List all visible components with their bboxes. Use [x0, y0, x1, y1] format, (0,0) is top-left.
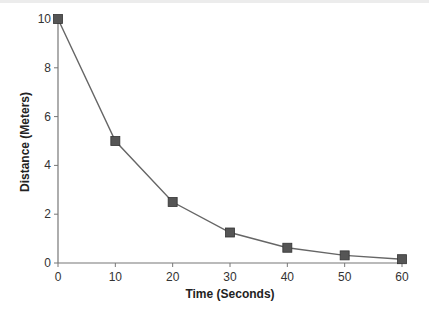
square-marker-icon [226, 228, 235, 237]
x-axis-title: Time (Seconds) [185, 287, 274, 301]
x-tick-label: 10 [109, 270, 123, 284]
distance-series-line [58, 19, 402, 259]
square-marker-icon [283, 243, 292, 252]
y-axis-ticks: 0246810 [38, 12, 58, 270]
square-marker-icon [168, 198, 177, 207]
x-tick-label: 60 [395, 270, 409, 284]
square-marker-icon [111, 137, 120, 146]
x-tick-label: 20 [166, 270, 180, 284]
square-marker-icon [340, 251, 349, 260]
square-marker-icon [54, 15, 63, 24]
line-chart: 0246810 0102030405060 Time (Seconds) Dis… [0, 0, 429, 321]
x-axis-ticks: 0102030405060 [55, 263, 409, 284]
y-tick-label: 6 [44, 110, 51, 124]
square-marker-icon [398, 255, 407, 264]
x-tick-label: 30 [223, 270, 237, 284]
x-tick-label: 50 [338, 270, 352, 284]
y-tick-label: 4 [44, 158, 51, 172]
y-tick-label: 0 [44, 256, 51, 270]
y-axis-title: Distance (Meters) [18, 92, 32, 192]
y-tick-label: 2 [44, 207, 51, 221]
data-point-markers [54, 15, 407, 264]
y-tick-label: 8 [44, 61, 51, 75]
x-tick-label: 40 [281, 270, 295, 284]
x-tick-label: 0 [55, 270, 62, 284]
y-tick-label: 10 [38, 12, 52, 26]
